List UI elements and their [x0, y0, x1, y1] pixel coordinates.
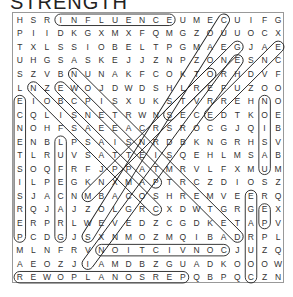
grid-cell[interactable]: I [163, 243, 177, 257]
grid-cell[interactable]: N [67, 189, 81, 203]
grid-cell[interactable]: F [258, 13, 272, 27]
grid-cell[interactable]: T [108, 108, 122, 122]
grid-cell[interactable]: Z [54, 257, 68, 271]
grid-cell[interactable]: I [54, 108, 68, 122]
grid-cell[interactable]: H [40, 121, 54, 135]
grid-cell[interactable]: Q [40, 162, 54, 176]
grid-cell[interactable]: O [108, 243, 122, 257]
grid-cell[interactable]: M [203, 189, 217, 203]
grid-cell[interactable]: F [54, 121, 68, 135]
grid-cell[interactable]: M [271, 162, 285, 176]
grid-cell[interactable]: S [54, 40, 68, 54]
grid-cell[interactable]: O [244, 257, 258, 271]
grid-cell[interactable]: C [244, 270, 258, 284]
grid-cell[interactable]: A [54, 203, 68, 217]
grid-cell[interactable]: F [54, 243, 68, 257]
grid-cell[interactable]: E [95, 121, 109, 135]
grid-cell[interactable]: B [135, 257, 149, 271]
grid-cell[interactable]: J [231, 121, 245, 135]
grid-cell[interactable]: H [244, 135, 258, 149]
grid-cell[interactable]: R [13, 270, 27, 284]
grid-cell[interactable]: P [108, 162, 122, 176]
grid-cell[interactable]: P [217, 270, 231, 284]
grid-cell[interactable]: L [13, 81, 27, 95]
grid-cell[interactable]: W [190, 203, 204, 217]
grid-cell[interactable]: K [122, 67, 136, 81]
grid-cell[interactable]: J [244, 40, 258, 54]
grid-cell[interactable]: O [122, 270, 136, 284]
grid-cell[interactable]: S [81, 230, 95, 244]
grid-cell[interactable]: A [203, 40, 217, 54]
grid-cell[interactable]: C [67, 94, 81, 108]
grid-cell[interactable]: S [163, 121, 177, 135]
grid-cell[interactable]: S [81, 54, 95, 68]
grid-cell[interactable]: E [13, 216, 27, 230]
grid-cell[interactable]: T [231, 216, 245, 230]
grid-cell[interactable]: L [203, 162, 217, 176]
grid-cell[interactable]: O [271, 94, 285, 108]
grid-cell[interactable]: R [149, 135, 163, 149]
grid-cell[interactable]: S [258, 176, 272, 190]
grid-cell[interactable]: E [271, 40, 285, 54]
grid-cell[interactable]: Z [190, 27, 204, 41]
grid-cell[interactable]: G [271, 13, 285, 27]
grid-cell[interactable]: B [54, 94, 68, 108]
grid-cell[interactable]: J [27, 189, 41, 203]
grid-cell[interactable]: Z [149, 257, 163, 271]
grid-cell[interactable]: H [163, 189, 177, 203]
grid-cell[interactable]: S [67, 40, 81, 54]
grid-cell[interactable]: Q [176, 148, 190, 162]
grid-cell[interactable]: L [176, 81, 190, 95]
grid-cell[interactable]: G [122, 203, 136, 217]
grid-cell[interactable]: G [54, 230, 68, 244]
grid-cell[interactable]: A [135, 176, 149, 190]
grid-cell[interactable]: R [176, 189, 190, 203]
grid-cell[interactable]: B [203, 230, 217, 244]
grid-cell[interactable]: G [217, 135, 231, 149]
grid-cell[interactable]: V [258, 67, 272, 81]
grid-cell[interactable]: F [81, 13, 95, 27]
grid-cell[interactable]: N [108, 270, 122, 284]
grid-cell[interactable]: N [95, 67, 109, 81]
grid-cell[interactable]: O [27, 121, 41, 135]
grid-cell[interactable]: M [163, 27, 177, 41]
grid-cell[interactable]: M [244, 162, 258, 176]
grid-cell[interactable]: S [67, 108, 81, 122]
grid-cell[interactable]: O [231, 257, 245, 271]
grid-cell[interactable]: D [54, 27, 68, 41]
grid-cell[interactable]: I [40, 27, 54, 41]
grid-cell[interactable]: R [149, 270, 163, 284]
grid-cell[interactable]: P [40, 176, 54, 190]
grid-cell[interactable]: O [244, 27, 258, 41]
grid-cell[interactable]: O [203, 243, 217, 257]
grid-cell[interactable]: S [81, 148, 95, 162]
grid-cell[interactable]: V [108, 216, 122, 230]
grid-cell[interactable]: S [244, 54, 258, 68]
grid-cell[interactable]: E [163, 270, 177, 284]
grid-cell[interactable]: O [40, 257, 54, 271]
grid-cell[interactable]: T [13, 40, 27, 54]
grid-cell[interactable]: N [271, 270, 285, 284]
grid-cell[interactable]: O [203, 67, 217, 81]
grid-cell[interactable]: I [190, 230, 204, 244]
grid-cell[interactable]: L [95, 13, 109, 27]
grid-cell[interactable]: O [190, 121, 204, 135]
grid-cell[interactable]: C [190, 108, 204, 122]
grid-cell[interactable]: I [27, 94, 41, 108]
grid-cell[interactable]: A [95, 135, 109, 149]
grid-cell[interactable]: L [54, 135, 68, 149]
grid-cell[interactable]: T [190, 67, 204, 81]
grid-cell[interactable]: O [81, 81, 95, 95]
grid-cell[interactable]: X [271, 27, 285, 41]
grid-cell[interactable]: C [135, 121, 149, 135]
grid-cell[interactable]: I [81, 257, 95, 271]
grid-cell[interactable]: C [190, 176, 204, 190]
grid-cell[interactable]: O [27, 162, 41, 176]
grid-cell[interactable]: E [135, 148, 149, 162]
grid-cell[interactable]: O [135, 189, 149, 203]
grid-cell[interactable]: A [13, 257, 27, 271]
grid-cell[interactable]: V [271, 135, 285, 149]
grid-cell[interactable]: S [54, 54, 68, 68]
grid-cell[interactable]: B [176, 135, 190, 149]
grid-cell[interactable]: N [203, 135, 217, 149]
